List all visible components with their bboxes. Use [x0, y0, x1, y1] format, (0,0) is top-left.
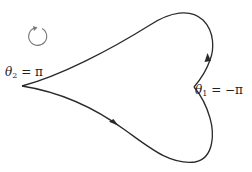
direction-arrow-upper-icon	[205, 53, 212, 62]
left-cusp-label: θ2 = π	[5, 66, 43, 80]
equation-rest: = −π	[207, 83, 243, 97]
right-cusp-label: θ1 = −π	[195, 84, 243, 98]
counterclockwise-arrow-icon	[29, 26, 47, 45]
equation-rest: = π	[17, 65, 43, 79]
upper-contour-branch	[22, 13, 213, 87]
